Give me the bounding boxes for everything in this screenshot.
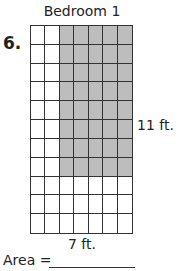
grid-cell bbox=[103, 101, 117, 120]
grid-cell bbox=[74, 82, 88, 101]
grid-cell bbox=[118, 177, 132, 196]
grid-cell bbox=[118, 26, 132, 45]
grid-cell bbox=[89, 214, 103, 233]
grid-cell bbox=[31, 101, 45, 120]
grid-cell bbox=[103, 26, 117, 45]
grid-cell bbox=[74, 101, 88, 120]
grid-cell bbox=[118, 101, 132, 120]
grid-cell bbox=[45, 158, 59, 177]
grid-cell bbox=[103, 139, 117, 158]
grid-cell bbox=[45, 26, 59, 45]
grid-cell bbox=[60, 26, 74, 45]
grid-cell bbox=[89, 195, 103, 214]
grid-cell bbox=[31, 26, 45, 45]
grid-cell bbox=[60, 214, 74, 233]
grid-cell bbox=[74, 64, 88, 83]
grid-cell bbox=[45, 214, 59, 233]
grid-cell bbox=[103, 120, 117, 139]
grid-cell bbox=[60, 45, 74, 64]
grid-cell bbox=[45, 82, 59, 101]
grid-cell bbox=[60, 120, 74, 139]
grid-cell bbox=[60, 101, 74, 120]
grid-cell bbox=[89, 26, 103, 45]
grid-cell bbox=[103, 64, 117, 83]
grid-cell bbox=[31, 45, 45, 64]
grid-cell bbox=[60, 82, 74, 101]
grid-cell bbox=[74, 177, 88, 196]
grid-cell bbox=[60, 177, 74, 196]
grid-cell bbox=[118, 214, 132, 233]
grid-cell bbox=[31, 195, 45, 214]
grid-cell bbox=[31, 158, 45, 177]
grid-cell bbox=[60, 158, 74, 177]
grid-cell bbox=[74, 195, 88, 214]
answer-blank[interactable] bbox=[49, 267, 135, 268]
grid-cell bbox=[89, 64, 103, 83]
grid-cell bbox=[74, 158, 88, 177]
grid-cell bbox=[118, 120, 132, 139]
grid-cell bbox=[31, 214, 45, 233]
area-grid bbox=[30, 25, 133, 234]
grid-cell bbox=[74, 26, 88, 45]
grid-cell bbox=[118, 158, 132, 177]
grid-cell bbox=[89, 139, 103, 158]
grid-cell bbox=[45, 101, 59, 120]
bottom-length-label: 7 ft. bbox=[30, 236, 134, 252]
grid-cell bbox=[103, 195, 117, 214]
grid-cell bbox=[74, 120, 88, 139]
grid-cell bbox=[60, 64, 74, 83]
grid-cell bbox=[31, 177, 45, 196]
grid-cell bbox=[118, 82, 132, 101]
side-length-label: 11 ft. bbox=[137, 117, 174, 133]
grid-cell bbox=[118, 64, 132, 83]
grid-cell bbox=[118, 45, 132, 64]
figure-title: Bedroom 1 bbox=[30, 3, 134, 19]
grid-cell bbox=[89, 101, 103, 120]
grid-cell bbox=[45, 120, 59, 139]
grid-cell bbox=[74, 139, 88, 158]
grid-cell bbox=[118, 195, 132, 214]
grid-cell bbox=[31, 139, 45, 158]
grid-cell bbox=[89, 82, 103, 101]
grid-cell bbox=[45, 177, 59, 196]
grid-cell bbox=[118, 139, 132, 158]
grid-cell bbox=[45, 195, 59, 214]
grid-cell bbox=[31, 64, 45, 83]
grid-cell bbox=[74, 45, 88, 64]
grid-cell bbox=[89, 177, 103, 196]
grid-cell bbox=[103, 158, 117, 177]
grid-cell bbox=[89, 120, 103, 139]
grid-cell bbox=[103, 177, 117, 196]
grid-cell bbox=[45, 139, 59, 158]
grid-cell bbox=[89, 158, 103, 177]
grid-cell bbox=[60, 195, 74, 214]
grid-cell bbox=[31, 120, 45, 139]
problem-number: 6. bbox=[3, 33, 21, 53]
grid-cell bbox=[45, 64, 59, 83]
grid-cell bbox=[103, 45, 117, 64]
grid-cell bbox=[103, 214, 117, 233]
area-label: Area = bbox=[3, 252, 51, 268]
grid-cell bbox=[60, 139, 74, 158]
grid-cell bbox=[74, 214, 88, 233]
grid-cell bbox=[103, 82, 117, 101]
grid-cell bbox=[89, 45, 103, 64]
grid-cell bbox=[31, 82, 45, 101]
grid-cell bbox=[45, 45, 59, 64]
